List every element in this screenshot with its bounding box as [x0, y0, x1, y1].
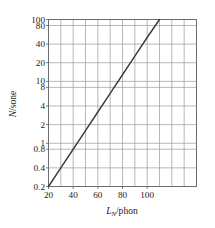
x-tick-label: 100 [140, 190, 154, 200]
y-tick-label: 40 [36, 39, 46, 49]
x-tick-label: 40 [69, 190, 79, 200]
figure-container: 0.20.40.8124810204080100 20406080100 LN/… [0, 0, 215, 228]
svg-text:LN/phon: LN/phon [105, 205, 138, 217]
y-tick-label: 10 [36, 76, 46, 86]
y-axis-title: N/sone [7, 91, 18, 119]
x-tick-label: 60 [93, 190, 103, 200]
y-tick-label: 0.4 [34, 163, 46, 173]
chart-background [0, 0, 215, 228]
x-tick-label: 20 [44, 190, 54, 200]
x-tick-label: 80 [118, 190, 128, 200]
y-tick-label: 2 [40, 120, 45, 130]
loudness-vs-level-chart: 0.20.40.8124810204080100 20406080100 LN/… [0, 0, 215, 228]
svg-text:N/sone: N/sone [7, 91, 18, 119]
x-axis-title: LN/phon [105, 205, 138, 217]
y-tick-label: 4 [40, 101, 45, 111]
y-tick-label: 100 [31, 15, 45, 25]
y-tick-label: 1 [40, 138, 45, 148]
y-tick-label: 20 [36, 58, 46, 68]
